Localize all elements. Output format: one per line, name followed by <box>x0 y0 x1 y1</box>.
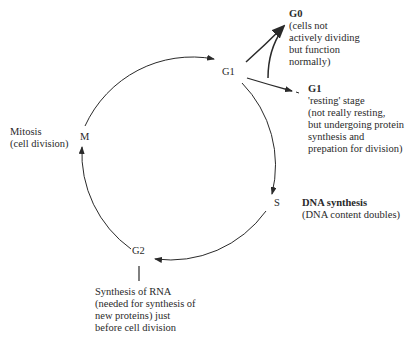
annotation-g1-line: but undergoing protein <box>308 119 404 131</box>
annotation-g1-line: prepation for division) <box>308 143 404 155</box>
annotation-m: Mitosis (cell division) <box>10 126 69 150</box>
annotation-g1-resting: G1 'resting' stage (not really resting, … <box>308 83 404 155</box>
annotation-g2: Synthesis of RNA (needed for synthesis o… <box>95 286 196 334</box>
annotation-g0: G0 (cells not actively dividing but func… <box>289 8 360 68</box>
annotation-s-line: (DNA content doubles) <box>302 209 400 221</box>
node-g1: G1 <box>222 66 235 78</box>
annotation-g1-title: G1 <box>308 83 404 95</box>
arrow-g0-return <box>268 30 282 78</box>
annotation-g0-line: normally) <box>289 56 360 68</box>
node-s: S <box>274 197 280 209</box>
arrow-g1-to-resting <box>247 78 292 91</box>
annotation-g0-line: actively dividing <box>289 32 360 44</box>
annotation-g2-line: new proteins) just <box>95 310 196 322</box>
annotation-g2-line: (needed for synthesis of <box>95 298 196 310</box>
node-m: M <box>80 131 89 143</box>
annotation-g2-line: Synthesis of RNA <box>95 286 196 298</box>
annotation-g0-title: G0 <box>289 8 360 20</box>
arrow-s-to-g2 <box>155 211 266 260</box>
arrow-g1-to-g0 <box>246 26 284 62</box>
annotation-s: DNA synthesis (DNA content doubles) <box>302 197 400 221</box>
annotation-m-line: (cell division) <box>10 138 69 150</box>
annotation-g1-line: synthesis and <box>308 131 404 143</box>
annotation-g0-line: but function <box>289 44 360 56</box>
annotation-g0-line: (cells not <box>289 20 360 32</box>
arrow-g1-to-s <box>242 83 276 194</box>
annotation-s-title: DNA synthesis <box>302 197 400 209</box>
annotation-m-line: Mitosis <box>10 126 69 138</box>
annotation-g1-line: (not really resting, <box>308 107 404 119</box>
node-g2: G2 <box>132 245 145 257</box>
annotation-g1-line: 'resting' stage <box>308 95 404 107</box>
arrow-g2-to-m <box>82 147 131 249</box>
annotation-g2-line: before cell division <box>95 322 196 334</box>
arrow-m-to-g1 <box>85 57 214 126</box>
